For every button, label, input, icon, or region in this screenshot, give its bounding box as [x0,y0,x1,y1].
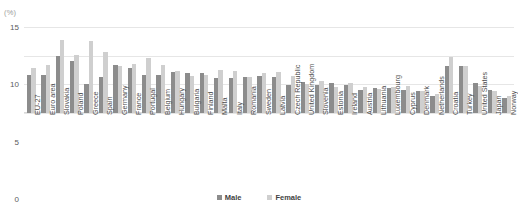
legend-label: Female [275,193,301,202]
x-axis-category-label: Austria [366,93,373,115]
x-axis-category-label: EU-27 [34,95,41,115]
x-axis-category-label: Poland [78,93,85,115]
x-axis-category: Slovakia [53,115,67,187]
x-axis-category: France [125,115,139,187]
x-axis-category: Denmark [413,115,427,187]
x-axis-category: Euro area [38,115,52,187]
x-axis-category: Norway [499,115,513,187]
x-axis-category: Sweden [255,115,269,187]
x-axis-category-label: Romania [250,86,257,115]
x-axis-category: EU-27 [24,115,38,187]
x-axis-category: Poland [67,115,81,187]
x-axis-category: Lithuania [370,115,384,187]
x-axis-category-label: United States [481,72,488,115]
legend-swatch-icon [267,195,272,200]
x-axis-category: Italy [226,115,240,187]
x-axis-category: Hungary [168,115,182,187]
x-axis-category: Finland [197,115,211,187]
x-axis-category: Belgium [154,115,168,187]
x-axis-category-label: Malta [222,97,229,115]
x-axis-category: Japan [485,115,499,187]
x-axis-category-label: Ireland [351,93,358,115]
x-axis-category: Netherlands [427,115,441,187]
x-axis-category-label: Belgium [164,89,171,115]
x-axis-category: Spain [96,115,110,187]
x-axis-category-label: Euro area [49,83,56,115]
x-axis-category-label: Germany [121,85,128,115]
legend-label: Male [225,193,242,202]
y-axis-tick-label: 5 [15,137,19,146]
x-axis-category-label: Spain [106,97,113,115]
x-axis-category: Portugal [139,115,153,187]
x-axis-category-label: Slovenia [323,87,330,115]
legend-item-male[interactable]: Male [217,193,242,202]
x-axis-category-label: Japan [495,95,502,115]
x-axis-category-label: Cyprus [409,92,416,115]
x-axis-category-label: Netherlands [438,76,445,115]
x-axis-category: Turkey [456,115,470,187]
x-axis-category-label: Norway [510,91,517,115]
y-axis-tick-label: 15 [10,23,19,32]
x-axis-category-label: Greece [92,91,99,115]
x-axis-category: Latvia [269,115,283,187]
x-axis-category: Estonia [327,115,341,187]
x-axis-category: Malta [211,115,225,187]
x-axis-category-label: France [135,93,142,115]
x-axis-category: Czech Republic [283,115,297,187]
legend-item-female[interactable]: Female [267,193,301,202]
x-axis-category-label: Hungary [178,88,185,115]
chart-legend: MaleFemale [0,193,518,202]
x-axis-category-label: Italy [236,102,243,115]
x-axis-category: Slovenia [312,115,326,187]
x-axis-category: Austria [355,115,369,187]
bar-chart: (%) 051015 EU-27Euro areaSlovakiaPolandG… [0,0,518,212]
legend-swatch-icon [217,195,222,200]
x-axis-category-label: Portugal [150,88,157,115]
x-axis-category: United Kingdom [298,115,312,187]
x-axis-category-label: Slovakia [63,88,70,115]
x-axis-category-label: Luxembourg [395,75,402,115]
y-axis-tick-label: 10 [10,80,19,89]
x-axis-category: Romania [240,115,254,187]
x-axis-category: Germany [110,115,124,187]
x-axis-category-label: Sweden [265,89,272,115]
x-axis-category: Ireland [341,115,355,187]
cropped-title-fragment [0,0,518,7]
x-axis-category-label: Croatia [452,92,459,115]
x-axis-category-label: Estonia [337,91,344,115]
x-axis-category: Luxembourg [384,115,398,187]
x-axis-category-label: Latvia [279,96,286,115]
x-axis-category: Croatia [442,115,456,187]
x-axis-category-label: Finland [207,91,214,115]
x-axis-category: Cyprus [399,115,413,187]
x-axis-category-label: Bulgaria [193,89,200,115]
x-axis-category: Greece [82,115,96,187]
x-axis-category-label: Lithuania [380,86,387,115]
x-axis-category: Bulgaria [182,115,196,187]
y-axis-unit-label: (%) [4,8,16,17]
x-axis-category-labels: EU-27Euro areaSlovakiaPolandGreeceSpainG… [24,115,514,187]
x-axis-category-label: Denmark [423,86,430,115]
x-axis-category-label: Czech Republic [294,65,301,115]
x-axis-category: United States [471,115,485,187]
x-axis-category-label: United Kingdom [308,64,315,115]
x-axis-category-label: Turkey [467,93,474,115]
